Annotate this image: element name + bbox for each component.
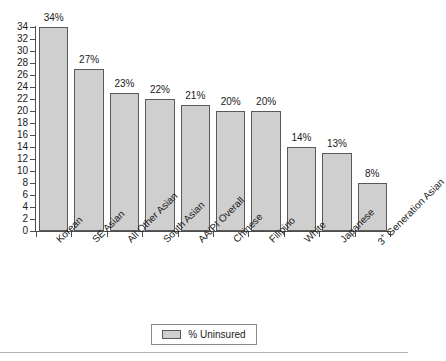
legend-label-uninsured: % Uninsured (188, 330, 245, 340)
bar-all-other-asian (110, 93, 139, 231)
y-tick-label-4: 4 (8, 202, 28, 212)
bar-value-label-0: 34% (39, 13, 68, 23)
y-tick-32 (30, 39, 35, 40)
y-tick-label-28: 28 (8, 58, 28, 68)
y-tick-2 (30, 219, 35, 220)
y-tick-12 (30, 159, 35, 160)
bar-japanese (322, 153, 351, 231)
y-tick-34 (30, 27, 35, 28)
y-tick-label-16: 16 (8, 130, 28, 140)
y-tick-label-26: 26 (8, 70, 28, 80)
y-tick-label-0: 0 (8, 226, 28, 236)
bar-se-asian (74, 69, 103, 231)
y-tick-label-14: 14 (8, 142, 28, 152)
y-tick-label-24: 24 (8, 82, 28, 92)
y-tick-10 (30, 171, 35, 172)
y-tick-30 (30, 51, 35, 52)
y-tick-label-32: 32 (8, 34, 28, 44)
y-tick-0 (30, 231, 35, 232)
bar-value-label-2: 23% (110, 79, 139, 89)
y-tick-label-10: 10 (8, 166, 28, 176)
y-tick-26 (30, 75, 35, 76)
bar-value-label-5: 20% (216, 97, 245, 107)
bar-value-label-8: 13% (322, 139, 351, 149)
y-tick-label-12: 12 (8, 154, 28, 164)
y-tick-label-20: 20 (8, 106, 28, 116)
y-tick-24 (30, 87, 35, 88)
bar-korean (39, 27, 68, 231)
footer-divider (0, 352, 408, 353)
y-tick-6 (30, 195, 35, 196)
y-tick-label-8: 8 (8, 178, 28, 188)
bar-value-label-9: 8% (358, 169, 387, 179)
bar-value-label-1: 27% (74, 55, 103, 65)
bar-value-label-7: 14% (287, 133, 316, 143)
y-tick-label-22: 22 (8, 94, 28, 104)
bar-value-label-6: 20% (251, 97, 280, 107)
y-tick-22 (30, 99, 35, 100)
y-tick-label-6: 6 (8, 190, 28, 200)
y-tick-label-18: 18 (8, 118, 28, 128)
bar-value-label-3: 22% (145, 85, 174, 95)
y-tick-14 (30, 147, 35, 148)
y-tick-label-30: 30 (8, 46, 28, 56)
y-tick-8 (30, 183, 35, 184)
legend-swatch-uninsured (162, 330, 181, 339)
y-tick-label-34: 34 (8, 22, 28, 32)
y-tick-label-2: 2 (8, 214, 28, 224)
chart-legend: % Uninsured (151, 324, 257, 345)
bar-value-label-4: 21% (181, 91, 210, 101)
y-tick-28 (30, 63, 35, 64)
y-tick-16 (30, 135, 35, 136)
y-tick-4 (30, 207, 35, 208)
x-tick-0 (36, 232, 37, 237)
y-tick-18 (30, 123, 35, 124)
y-tick-20 (30, 111, 35, 112)
